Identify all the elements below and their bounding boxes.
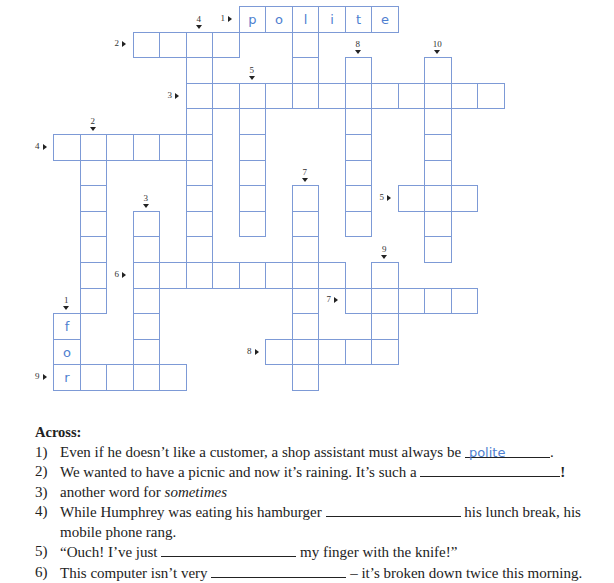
- grid-cell[interactable]: [424, 236, 452, 263]
- grid-cell[interactable]: [80, 185, 107, 212]
- grid-cell[interactable]: [424, 108, 452, 135]
- grid-cell[interactable]: [239, 262, 266, 289]
- grid-cell[interactable]: t: [345, 6, 372, 33]
- grid-cell[interactable]: [53, 134, 81, 161]
- answer-blank-2[interactable]: [420, 462, 560, 477]
- grid-cell[interactable]: [186, 160, 213, 186]
- grid-cell[interactable]: [133, 339, 160, 365]
- grid-cell[interactable]: [133, 364, 160, 391]
- grid-cell[interactable]: [292, 364, 319, 391]
- grid-cell[interactable]: [239, 83, 266, 109]
- answer-blank-5[interactable]: [161, 542, 296, 557]
- grid-cell[interactable]: [159, 262, 187, 289]
- grid-cell[interactable]: [186, 32, 213, 58]
- grid-cell[interactable]: f: [53, 313, 81, 340]
- grid-cell[interactable]: [345, 134, 372, 161]
- grid-cell[interactable]: [106, 364, 134, 391]
- grid-cell[interactable]: [106, 134, 134, 161]
- grid-cell[interactable]: [80, 262, 107, 289]
- grid-cell[interactable]: [239, 134, 266, 161]
- grid-cell[interactable]: [345, 288, 372, 314]
- grid-cell[interactable]: [371, 339, 399, 365]
- grid-cell[interactable]: [292, 288, 319, 314]
- answer-blank-6[interactable]: [211, 563, 346, 578]
- grid-cell[interactable]: [292, 185, 319, 212]
- grid-cell[interactable]: [80, 211, 107, 237]
- grid-cell[interactable]: [133, 134, 160, 161]
- grid-cell[interactable]: [345, 211, 372, 237]
- grid-cell[interactable]: [292, 83, 319, 109]
- grid-cell[interactable]: [318, 83, 346, 109]
- grid-cell[interactable]: [292, 57, 319, 84]
- grid-cell[interactable]: [80, 134, 107, 161]
- grid-cell[interactable]: [186, 262, 213, 289]
- grid-cell[interactable]: [239, 211, 266, 237]
- grid-cell[interactable]: [212, 262, 240, 289]
- grid-cell[interactable]: [159, 134, 187, 161]
- grid-cell[interactable]: [318, 262, 346, 289]
- grid-cell[interactable]: [186, 134, 213, 161]
- grid-cell[interactable]: [345, 339, 372, 365]
- grid-cell[interactable]: l: [292, 6, 319, 33]
- grid-cell[interactable]: o: [265, 6, 293, 33]
- grid-cell[interactable]: [159, 32, 187, 58]
- answer-blank-1[interactable]: polite: [465, 443, 550, 458]
- grid-cell[interactable]: [265, 262, 293, 289]
- grid-cell[interactable]: [186, 83, 213, 109]
- grid-cell[interactable]: [159, 364, 187, 391]
- grid-cell[interactable]: [292, 236, 319, 263]
- grid-cell[interactable]: [80, 364, 107, 391]
- grid-cell[interactable]: [398, 83, 425, 109]
- grid-cell[interactable]: [292, 262, 319, 289]
- grid-cell[interactable]: [371, 83, 399, 109]
- grid-cell[interactable]: [292, 339, 319, 365]
- grid-cell[interactable]: [292, 211, 319, 237]
- grid-cell[interactable]: [451, 185, 478, 212]
- grid-cell[interactable]: [186, 211, 213, 237]
- grid-cell[interactable]: [451, 83, 478, 109]
- grid-cell[interactable]: [212, 83, 240, 109]
- grid-cell[interactable]: e: [371, 6, 399, 33]
- grid-cell[interactable]: [186, 57, 213, 84]
- grid-cell[interactable]: r: [53, 364, 81, 391]
- grid-cell[interactable]: [477, 83, 505, 109]
- grid-cell[interactable]: [371, 313, 399, 340]
- grid-cell[interactable]: [398, 288, 425, 314]
- grid-cell[interactable]: [133, 288, 160, 314]
- grid-cell[interactable]: [345, 160, 372, 186]
- answer-blank-4[interactable]: [326, 502, 461, 517]
- grid-cell[interactable]: [371, 288, 399, 314]
- grid-cell[interactable]: [318, 339, 346, 365]
- grid-cell[interactable]: p: [239, 6, 266, 33]
- grid-cell[interactable]: [133, 313, 160, 340]
- grid-cell[interactable]: [239, 160, 266, 186]
- grid-cell[interactable]: i: [318, 6, 346, 33]
- grid-cell[interactable]: [265, 339, 293, 365]
- grid-cell[interactable]: [345, 185, 372, 212]
- grid-cell[interactable]: [133, 236, 160, 263]
- grid-cell[interactable]: [239, 108, 266, 135]
- grid-cell[interactable]: [80, 160, 107, 186]
- grid-cell[interactable]: [80, 236, 107, 263]
- grid-cell[interactable]: [424, 288, 452, 314]
- grid-cell[interactable]: [371, 262, 399, 289]
- grid-cell[interactable]: [292, 32, 319, 58]
- grid-cell[interactable]: [239, 185, 266, 212]
- grid-cell[interactable]: [186, 236, 213, 263]
- grid-cell[interactable]: [424, 160, 452, 186]
- grid-cell[interactable]: [133, 211, 160, 237]
- grid-cell[interactable]: [186, 185, 213, 212]
- grid-cell[interactable]: [345, 83, 372, 109]
- grid-cell[interactable]: [424, 134, 452, 161]
- grid-cell[interactable]: [424, 57, 452, 84]
- grid-cell[interactable]: [133, 32, 160, 58]
- grid-cell[interactable]: [186, 108, 213, 135]
- grid-cell[interactable]: [398, 185, 425, 212]
- grid-cell[interactable]: [345, 108, 372, 135]
- grid-cell[interactable]: [292, 313, 319, 340]
- grid-cell[interactable]: [133, 262, 160, 289]
- grid-cell[interactable]: [265, 83, 293, 109]
- grid-cell[interactable]: [451, 288, 478, 314]
- grid-cell[interactable]: [212, 32, 240, 58]
- grid-cell[interactable]: [80, 288, 107, 314]
